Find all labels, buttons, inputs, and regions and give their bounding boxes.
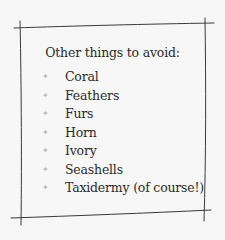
sparkle-bullet-icon: ✦	[42, 161, 65, 180]
sparkle-bullet-icon: ✦	[42, 179, 65, 198]
sparkle-bullet-icon: ✦	[42, 87, 65, 106]
sparkle-bullet-icon: ✦	[42, 105, 65, 124]
card-title: Other things to avoid:	[0, 45, 225, 60]
list-item-label: Feathers	[65, 87, 119, 106]
list-item-label: Ivory	[65, 142, 97, 161]
list-item: ✦Ivory	[42, 142, 204, 161]
list-item-label: Taxidermy (of course!)	[65, 179, 204, 198]
list-item-label: Seashells	[65, 161, 123, 180]
list-item: ✦Coral	[42, 68, 204, 87]
list-item: ✦Horn	[42, 124, 204, 143]
list-item: ✦Furs	[42, 105, 204, 124]
list-item: ✦Taxidermy (of course!)	[42, 179, 204, 198]
sparkle-bullet-icon: ✦	[42, 142, 65, 161]
avoid-list: ✦Coral ✦Feathers ✦Furs ✦Horn ✦Ivory ✦Sea…	[42, 68, 204, 198]
list-item-label: Furs	[65, 105, 93, 124]
sparkle-bullet-icon: ✦	[42, 68, 65, 87]
list-item-label: Coral	[65, 68, 99, 87]
sparkle-bullet-icon: ✦	[42, 124, 65, 143]
list-item: ✦Seashells	[42, 161, 204, 180]
list-item: ✦Feathers	[42, 87, 204, 106]
list-item-label: Horn	[65, 124, 97, 143]
